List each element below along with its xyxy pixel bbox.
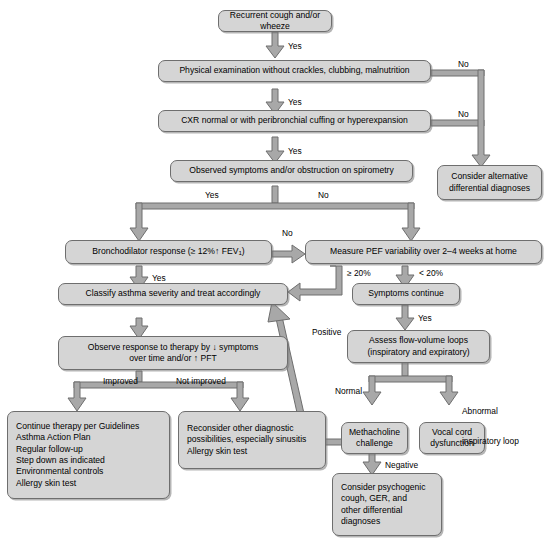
node-methacholine[interactable]: Methacholine challenge [341, 422, 408, 454]
node-cxr-label: CXR normal or with peribronchial cuffing… [181, 115, 408, 126]
connector-trunk-consider [472, 70, 490, 167]
node-assess-flow-volume[interactable]: Assess flow-volume loops (inspiratory an… [347, 330, 490, 363]
connector-no-2 [431, 120, 484, 126]
node-measure-pef-label: Measure PEF variability over 2–4 weeks a… [330, 246, 517, 257]
connector-split-spirometry [272, 186, 278, 203]
node-methacholine-line1: Methacholine [348, 427, 401, 438]
edge-label-abnormal-line2: inspiratory loop [462, 436, 519, 446]
node-classify-asthma-label: Classify asthma severity and treat accor… [86, 288, 261, 299]
node-measure-pef[interactable]: Measure PEF variability over 2–4 weeks a… [305, 240, 542, 264]
node-consider-psychogenic[interactable]: Consider psychogenic cough, GER, and oth… [332, 473, 442, 536]
node-continue-therapy[interactable]: Continue therapy per Guidelines Asthma A… [7, 411, 170, 499]
connector-yes-6 [396, 305, 414, 330]
edge-label-yes-6: Yes [418, 313, 432, 323]
node-reconsider-other-line-1: Reconsider other diagnostic [187, 423, 319, 434]
edge-label-no-5: No [282, 228, 293, 238]
node-continue-therapy-line-1: Continue therapy per Guidelines [16, 421, 163, 432]
node-observed-symptoms-label: Observed symptoms and/or obstruction on … [189, 165, 393, 176]
node-reconsider-other-line-3: Allergy skin test [187, 446, 319, 457]
node-recurrent-cough[interactable]: Recurrent cough and/or wheeze [218, 10, 332, 32]
node-symptoms-continue-label: Symptoms continue [368, 288, 443, 299]
node-observe-response-line2: over time and/or ↑ PFT [65, 353, 281, 364]
edge-label-abnormal-line1: Abnormal [462, 406, 519, 416]
edge-label-positive: Positive [312, 327, 341, 337]
edge-label-yes-1: Yes [288, 41, 302, 51]
connector-no-5 [272, 245, 305, 263]
node-consider-psychogenic-line-3: other differential [341, 505, 435, 516]
node-recurrent-cough-label: Recurrent cough and/or wheeze [225, 10, 325, 33]
edge-label-ge-20: ≥ 20% [347, 268, 371, 278]
node-cxr[interactable]: CXR normal or with peribronchial cuffing… [158, 110, 431, 132]
node-assess-flow-volume-line1: Assess flow-volume loops [354, 335, 483, 346]
connector-ge20 [288, 266, 342, 301]
edge-label-not-improved: Not improved [176, 376, 226, 386]
node-assess-flow-volume-line2: (inspiratory and expiratory) [354, 347, 483, 358]
edge-label-yes-3: Yes [288, 146, 302, 156]
edge-label-normal: Normal [335, 386, 362, 396]
connector-no-1 [431, 70, 484, 76]
edge-label-no-1: No [458, 59, 469, 69]
connector-not-improved [231, 382, 249, 411]
node-reconsider-other[interactable]: Reconsider other diagnostic possibilitie… [178, 411, 326, 469]
connector-improved [68, 382, 86, 411]
node-physical-exam-label: Physical examination without crackles, c… [179, 65, 409, 76]
flowchart-canvas: .conn { fill: #a8a8a8; stroke: #6e6e6e; … [0, 0, 551, 543]
node-observed-symptoms[interactable]: Observed symptoms and/or obstruction on … [170, 160, 413, 182]
node-consider-alternative-line2: differential diagnoses [444, 183, 535, 194]
edge-label-no-4: No [318, 190, 329, 200]
edge-label-improved: Improved [103, 376, 138, 386]
node-observe-response-line1: Observe response to therapy by ↓ symptom… [65, 342, 281, 353]
node-reconsider-other-lines: Reconsider other diagnostic possibilitie… [187, 423, 319, 457]
edge-label-negative: Negative [385, 460, 418, 470]
node-consider-psychogenic-line-4: diagnoses [341, 516, 435, 527]
node-consider-psychogenic-line-2: cough, GER, and [341, 493, 435, 504]
connector-no-4 [402, 203, 420, 241]
connector-yes-4 [130, 203, 148, 241]
connector-normal [363, 376, 381, 405]
node-continue-therapy-line-5: Environmental controls [16, 466, 163, 477]
connector-yes-1 [266, 32, 284, 58]
edge-label-yes-4: Yes [205, 190, 219, 200]
node-observe-response[interactable]: Observe response to therapy by ↓ symptom… [58, 336, 288, 370]
node-consider-alternative[interactable]: Consider alternative differential diagno… [437, 165, 542, 200]
node-classify-asthma[interactable]: Classify asthma severity and treat accor… [58, 283, 288, 305]
node-bronchodilator-label: Bronchodilator response (≥ 12%↑ FEV1) [92, 246, 244, 259]
node-continue-therapy-line-4: Step down as indicated [16, 455, 163, 466]
node-continue-therapy-lines: Continue therapy per Guidelines Asthma A… [16, 421, 163, 489]
node-consider-alternative-line1: Consider alternative [444, 171, 535, 182]
node-consider-psychogenic-lines: Consider psychogenic cough, GER, and oth… [341, 482, 435, 528]
edge-label-no-2: No [458, 109, 469, 119]
node-continue-therapy-line-3: Regular follow-up [16, 444, 163, 455]
node-consider-psychogenic-line-1: Consider psychogenic [341, 482, 435, 493]
node-reconsider-other-line-2: possibilities, especially sinusitis [187, 434, 319, 445]
edge-label-yes-2: Yes [288, 97, 302, 107]
connector-split-flowvolume [402, 362, 408, 376]
node-physical-exam[interactable]: Physical examination without crackles, c… [158, 60, 431, 82]
connector-abnormal [440, 376, 458, 405]
node-continue-therapy-line-6: Allergy skin test [16, 478, 163, 489]
edge-label-lt-20: < 20% [419, 268, 443, 278]
node-symptoms-continue[interactable]: Symptoms continue [352, 283, 460, 305]
node-continue-therapy-line-2: Asthma Action Plan [16, 432, 163, 443]
edge-label-yes-5: Yes [152, 273, 166, 283]
node-bronchodilator[interactable]: Bronchodilator response (≥ 12%↑ FEV1) [65, 240, 272, 264]
node-methacholine-line2: challenge [348, 438, 401, 449]
edge-label-abnormal: Abnormal inspiratory loop [462, 386, 519, 466]
